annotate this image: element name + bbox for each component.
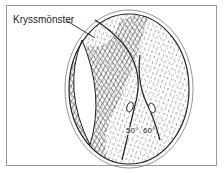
crosshatch-callout-label: Kryssmönster — [13, 14, 74, 25]
cylinder-bore-illustration — [0, 0, 224, 173]
angle-label-60: 60° — [143, 127, 155, 135]
angle-label-50: 50° — [126, 127, 138, 135]
